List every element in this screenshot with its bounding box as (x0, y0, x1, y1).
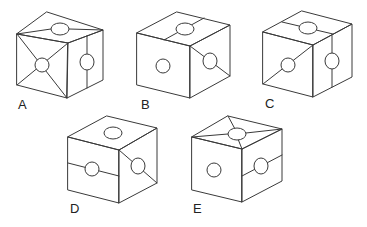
cube-c-right-hole (325, 53, 339, 69)
cube-b-right-hole (203, 53, 217, 69)
option-label-c: C (265, 97, 274, 110)
cube-c (263, 11, 352, 97)
cube-d-top-hole (104, 127, 122, 139)
cube-e-top-hole (228, 128, 246, 140)
cube-options-diagram (0, 0, 367, 227)
cube-c-front-hole (281, 58, 295, 72)
cube-c-top-hole (299, 22, 317, 34)
option-label-d: D (70, 202, 79, 215)
cube-a-right-hole (80, 54, 94, 70)
cube-e-right-hole (254, 158, 268, 174)
cube-e (192, 116, 282, 202)
cube-a (17, 12, 103, 98)
cube-b (137, 12, 230, 98)
cube-d (68, 116, 157, 203)
cube-b-front-hole (156, 59, 170, 73)
cube-d-front-hole (85, 162, 99, 176)
option-label-b: B (141, 98, 150, 111)
cube-a-top-hole (51, 23, 69, 35)
cube-e-front-hole (207, 163, 221, 177)
cube-a-front-hole (35, 58, 49, 72)
cube-d-right-hole (131, 158, 145, 174)
option-label-e: E (193, 202, 202, 215)
cube-b-top-hole (176, 23, 194, 35)
option-label-a: A (18, 98, 27, 111)
